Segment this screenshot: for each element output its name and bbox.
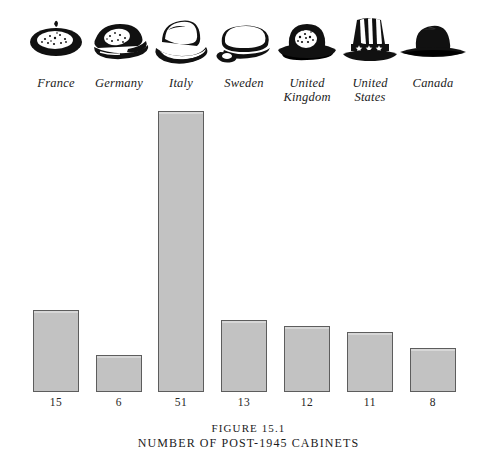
peaked-cap-icon	[84, 8, 154, 70]
bar-germany	[96, 355, 142, 392]
chart-column-canada: Canada 8	[398, 0, 468, 410]
chart-column-france: France 15	[21, 0, 91, 410]
bar-france	[33, 310, 79, 392]
figure-number-caption: FIGURE 15.1	[0, 422, 497, 434]
country-label-line1: Canada	[413, 76, 454, 90]
bar-canada	[410, 348, 456, 392]
flat-cap-icon	[209, 8, 279, 70]
bar-italy	[158, 111, 204, 392]
chart-column-united-kingdom: United Kingdom 12	[272, 0, 342, 410]
beret-hat-icon	[21, 8, 91, 70]
bar-united-kingdom	[284, 326, 330, 392]
uncle-sam-top-hat-icon	[335, 8, 405, 70]
country-label-line1: Germany	[95, 76, 143, 90]
fedora-hat-icon	[146, 8, 216, 70]
value-label-canada: 8	[392, 396, 474, 408]
figure-15-1: France 15 Germany 6	[0, 0, 497, 454]
bar-united-states	[347, 332, 393, 392]
chart-column-italy: Italy 51	[146, 0, 216, 410]
chart-column-united-states: United States 11	[335, 0, 405, 410]
figure-title-caption: NUMBER OF POST-1945 CABINETS	[0, 436, 497, 451]
country-label-line1: Italy	[169, 76, 193, 90]
country-label-line1: France	[37, 76, 74, 90]
bar-sweden	[221, 320, 267, 392]
country-label-line1: Sweden	[224, 76, 263, 90]
bowler-hat-icon	[272, 8, 342, 70]
chart-column-germany: Germany 6	[84, 0, 154, 410]
country-label-line1: United	[289, 76, 324, 90]
mountie-campaign-hat-icon	[398, 8, 468, 70]
country-label-line1: United	[352, 76, 387, 90]
chart-column-sweden: Sweden 13	[209, 0, 279, 410]
country-label-canada: Canada	[392, 76, 474, 90]
